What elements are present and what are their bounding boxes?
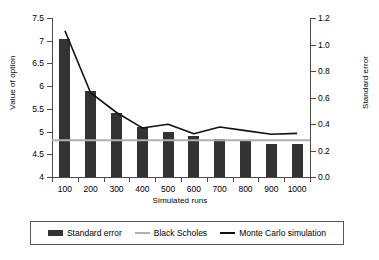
bar — [266, 144, 277, 177]
line-swatch-black-icon — [220, 232, 235, 234]
y-axis-left-tick — [47, 109, 52, 110]
y-axis-left-tick-label: 6 — [16, 81, 44, 91]
legend-label-black-scholes: Black Scholes — [154, 228, 207, 238]
y-axis-left-tick — [47, 86, 52, 87]
y-axis-left-line — [52, 18, 53, 178]
x-axis-tick — [78, 178, 79, 182]
bar — [214, 139, 225, 177]
bar — [292, 144, 303, 177]
bar — [137, 127, 148, 177]
line-swatch-gray-icon — [135, 232, 150, 234]
bar — [188, 136, 199, 177]
y-axis-right-tick-label: 0.6 — [318, 93, 348, 103]
y-axis-right-tick-label: 1.0 — [318, 40, 348, 50]
chart-legend: Standard error Black Scholes Monte Carlo… — [30, 221, 344, 245]
y-axis-right-tick — [311, 177, 316, 178]
y-axis-right-tick-label: 0.8 — [318, 66, 348, 76]
bar-swatch-icon — [48, 230, 63, 236]
x-axis-title: Simulated runs — [50, 196, 310, 205]
y-axis-left-tick — [47, 41, 52, 42]
bar — [85, 91, 96, 177]
y-axis-left-tick-label: 7 — [16, 36, 44, 46]
y-axis-right-tick — [311, 98, 316, 99]
y-axis-left-tick-label: 5 — [16, 127, 44, 137]
y-axis-right-tick — [311, 71, 316, 72]
legend-item-black-scholes: Black Scholes — [135, 228, 207, 238]
y-axis-left-tick-label: 5.5 — [16, 104, 44, 114]
y-axis-left-tick-label: 4 — [16, 172, 44, 182]
y-axis-right-title: Standard error — [361, 43, 370, 123]
y-axis-right-tick-label: 0.0 — [318, 172, 348, 182]
x-axis-tick — [181, 178, 182, 182]
x-axis-tick — [129, 178, 130, 182]
y-axis-right-tick-label: 0.4 — [318, 119, 348, 129]
bar — [240, 141, 251, 177]
y-axis-left-tick — [47, 63, 52, 64]
y-axis-left-tick-label: 4.5 — [16, 149, 44, 159]
y-axis-right-tick-label: 1.2 — [318, 13, 348, 23]
x-axis-tick — [104, 178, 105, 182]
bar — [111, 113, 122, 177]
x-axis-tick-label: 1000 — [282, 184, 312, 194]
y-axis-left-tick-label: 7.5 — [16, 13, 44, 23]
y-axis-right-tick — [311, 18, 316, 19]
legend-label-standard-error: Standard error — [67, 228, 122, 238]
y-axis-left-tick — [47, 132, 52, 133]
bar — [163, 132, 174, 177]
legend-label-monte-carlo: Monte Carlo simulation — [239, 228, 326, 238]
x-axis-tick — [310, 178, 311, 182]
x-axis-tick — [207, 178, 208, 182]
y-axis-left-tick — [47, 154, 52, 155]
x-axis-tick — [233, 178, 234, 182]
x-axis-tick — [258, 178, 259, 182]
bar — [59, 39, 70, 177]
y-axis-right-tick — [311, 45, 316, 46]
y-axis-right-tick-label: 0.2 — [318, 146, 348, 156]
y-axis-right-tick — [311, 151, 316, 152]
y-axis-left-tick-label: 6.5 — [16, 58, 44, 68]
y-axis-right-tick — [311, 124, 316, 125]
line-monte-carlo-simulation — [65, 31, 297, 135]
legend-item-standard-error: Standard error — [48, 228, 122, 238]
x-axis-tick — [284, 178, 285, 182]
y-axis-left-tick — [47, 18, 52, 19]
x-axis-tick — [155, 178, 156, 182]
legend-item-monte-carlo: Monte Carlo simulation — [220, 228, 326, 238]
chart-figure: Value of option Standard error Simulated… — [0, 0, 379, 260]
x-axis-tick — [52, 178, 53, 182]
